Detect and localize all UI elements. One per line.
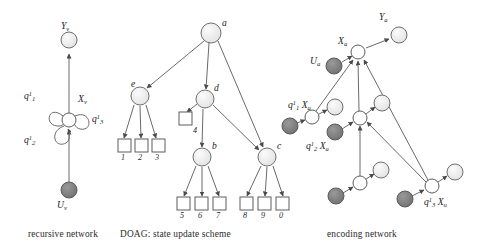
edge-d-to-leaf4 [187,104,197,112]
node-Uv[interactable] [61,182,77,198]
edge-a-to-e [147,41,204,88]
caption-doag: DOAG: state update scheme [120,229,231,239]
label-q1: q11 [24,90,35,102]
node-a[interactable] [201,23,221,43]
node-q2-state[interactable] [353,111,367,125]
edge-c-to-leaf8 [247,166,261,196]
edge-q3in-to-state [412,190,424,196]
edge-a-to-c [218,41,263,147]
leaf-box-0[interactable] [276,197,289,210]
node-e[interactable] [131,87,149,105]
edge-e-to-leaf3 [146,105,156,138]
label-q3: q13 [92,113,103,125]
doag-group [118,23,289,210]
edge-midstate-to-out [366,174,374,179]
edge-d-to-c [213,105,259,150]
leaf-box-2[interactable] [135,139,148,152]
leaf-label-9: 9 [261,211,265,220]
leaf-label-6: 6 [198,211,202,220]
leaf-box-7[interactable] [213,197,226,210]
node-q3-in[interactable] [397,191,413,207]
leaf-box-3[interactable] [152,139,165,152]
node-Yv[interactable] [61,32,77,48]
edge-q2state-to-Xa [358,61,359,111]
label-q1-Xa: q11 Xa [288,99,311,111]
label-q3-Xu: q13 Xu [424,196,447,208]
leaf-box-8[interactable] [240,197,253,210]
node-q3-state[interactable] [425,179,439,193]
edge-e-to-leaf2 [140,106,141,138]
label-node-a: a [222,17,227,28]
recursive-network-group [49,32,89,198]
label-Xv: Xv [78,93,87,105]
node-mid-out[interactable] [373,162,389,178]
node-d[interactable] [196,90,214,108]
label-q2-Xa: q12 Xa [306,140,329,152]
edge-Ua-to-Xa [342,56,352,62]
edge-q1in-to-state [297,120,305,123]
label-Ya: Ya [379,11,388,23]
edge-a-to-d [206,43,209,89]
edge-q2in-to-state [342,122,353,129]
node-q2-in[interactable] [327,124,343,140]
node-c[interactable] [258,148,276,166]
node-q1-in[interactable] [282,118,298,134]
edge-q3state-to-Xa [364,60,428,180]
leaf-box-5[interactable] [177,197,190,210]
caption-encoding-network: encoding network [327,229,397,239]
leaf-box-9[interactable] [258,197,271,210]
self-loop-q2 [55,126,70,144]
leaf-label-3: 3 [155,153,159,162]
edge-q1state-to-out [319,110,327,114]
leaf-label-0: 0 [279,211,283,220]
edge-b-to-leaf5 [184,166,196,196]
leaf-label-4: 4 [193,126,197,135]
leaf-label-1: 1 [121,153,125,162]
edge-d-to-b [202,109,203,147]
leaf-label-8: 8 [243,211,247,220]
edge-Xa-to-Ya [366,39,389,48]
node-mid-state[interactable] [353,176,367,190]
label-Uv: Uv [57,199,67,211]
node-Xv[interactable] [62,113,76,127]
edge-c-to-leaf9 [265,167,267,196]
label-node-b: b [212,140,217,151]
label-Xa-top: Xa [338,35,347,47]
label-node-d: d [214,82,219,93]
figure-canvas: Yv Xv q11 q12 q13 Uv a e d b c 1 2 3 4 5… [0,0,488,248]
node-q1-state[interactable] [305,110,319,124]
leaf-box-4[interactable] [179,112,192,125]
node-q1-out[interactable] [327,99,343,115]
node-q3-out[interactable] [447,164,463,180]
node-Ya[interactable] [391,27,407,43]
node-q2-out[interactable] [374,95,390,111]
edge-q3state-to-out [438,176,447,182]
edge-b-to-leaf7 [208,166,219,196]
node-mid-in[interactable] [328,188,344,204]
node-Ua[interactable] [326,58,342,74]
label-q2: q12 [24,134,35,146]
label-node-c: c [277,140,281,151]
label-Yv: Yv [61,20,69,32]
encoding-network-group [282,27,463,207]
label-Ua: Ua [310,55,320,67]
edge-midin-to-state [343,187,353,193]
node-Xa-center[interactable] [351,45,365,59]
leaf-label-7: 7 [216,211,220,220]
edge-e-to-leaf1 [124,105,134,138]
caption-recursive-network: recursive network [28,229,98,239]
label-node-e: e [131,78,135,89]
leaf-label-2: 2 [138,153,142,162]
leaf-box-6[interactable] [195,197,208,210]
leaf-box-1[interactable] [118,139,131,152]
edge-q2state-to-out [366,107,375,114]
node-b[interactable] [193,148,211,166]
leaf-label-5: 5 [180,211,184,220]
edge-c-to-leaf0 [273,166,283,196]
